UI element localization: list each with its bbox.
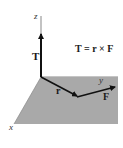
torque-diagram: z y x T r F T = r × F <box>0 0 123 148</box>
force-label: F <box>103 92 109 102</box>
x-axis-label: x <box>9 123 13 132</box>
cross-product-equation: T = r × F <box>75 44 113 54</box>
position-label: r <box>56 86 60 96</box>
torque-label: T <box>32 51 39 62</box>
diagram-canvas <box>0 0 123 148</box>
z-axis-label: z <box>34 12 38 21</box>
y-axis-label: y <box>99 76 103 85</box>
